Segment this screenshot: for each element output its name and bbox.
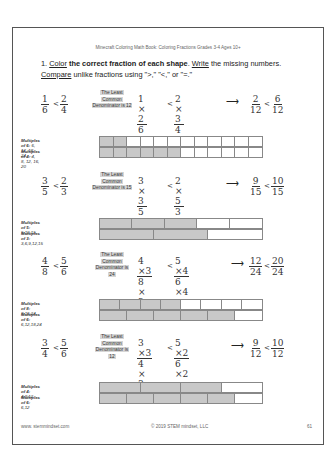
bar-cell[interactable]	[114, 148, 128, 157]
bar-cell[interactable]	[100, 311, 127, 320]
bar-cell[interactable]	[181, 383, 222, 392]
bar-cell[interactable]	[208, 148, 222, 157]
multiples-label: Multiples of 4: 4, 8, 12, 16, 20	[21, 149, 40, 169]
bar-cell[interactable]	[235, 394, 262, 403]
fraction-b-denominator: 3	[60, 187, 68, 197]
lcd-line: Denominator is 15	[90, 185, 134, 192]
lcd-line: 12	[90, 354, 134, 361]
fraction-bar[interactable]	[99, 136, 263, 147]
bar-cell[interactable]	[141, 300, 161, 309]
fraction-a-numerator: 1	[41, 94, 49, 105]
bar-cell[interactable]	[195, 148, 209, 157]
bar-cell[interactable]	[208, 394, 235, 403]
bar-cell[interactable]	[168, 148, 182, 157]
lcd-label: The LeastCommonDenominator is 12	[90, 90, 134, 110]
arrow-icon: ⟶	[231, 258, 244, 268]
bar-cell[interactable]	[161, 300, 181, 309]
fraction-b: 24	[60, 94, 68, 115]
bar-cell[interactable]	[127, 394, 154, 403]
bar-cell[interactable]	[235, 148, 249, 157]
bar-cell[interactable]	[141, 137, 155, 146]
result-fraction-a-denominator: 24	[249, 267, 262, 277]
bar-cell[interactable]	[100, 148, 114, 157]
bar-cell[interactable]	[181, 300, 201, 309]
bar-cell[interactable]	[141, 383, 182, 392]
fraction-bar[interactable]	[99, 218, 263, 229]
bar-cell[interactable]	[100, 383, 141, 392]
bar-cell[interactable]	[235, 311, 262, 320]
bar-cell[interactable]	[100, 219, 132, 228]
multiples-title: Multiples of 8:	[21, 301, 40, 311]
expanded-fraction-b-numerator: 2 × 5	[174, 176, 184, 207]
bar-cell[interactable]	[100, 394, 127, 403]
fraction-bar[interactable]	[99, 147, 263, 158]
bar-cell[interactable]	[154, 311, 181, 320]
result-fraction-a-numerator: 9	[252, 338, 260, 349]
bar-cell[interactable]	[100, 230, 154, 239]
result-fraction-b: 612	[271, 94, 284, 115]
lcd-text: 24	[108, 272, 115, 277]
bar-cell[interactable]	[127, 311, 154, 320]
bar-cell[interactable]	[235, 137, 249, 146]
bar-cell[interactable]	[242, 300, 262, 309]
result-fraction-b: 1015	[271, 176, 284, 197]
expanded-fraction-b-numerator: 5 ×2	[174, 338, 189, 359]
bar-cell[interactable]	[165, 219, 197, 228]
bar-cell[interactable]	[127, 137, 141, 146]
comparison-sign: <	[167, 262, 173, 270]
bar-cell[interactable]	[222, 383, 263, 392]
bar-cell[interactable]	[127, 148, 141, 157]
fraction-a-numerator: 3	[41, 176, 49, 187]
bar-cell[interactable]	[114, 137, 128, 146]
bar-cell[interactable]	[100, 300, 120, 309]
bar-cell[interactable]	[208, 311, 235, 320]
result-fraction-a: 212	[249, 94, 262, 115]
bar-cell[interactable]	[154, 394, 181, 403]
bar-cell[interactable]	[222, 137, 236, 146]
lcd-text: The Least	[100, 90, 123, 95]
expanded-fraction-a-numerator: 1 × 2	[137, 94, 147, 125]
bar-cell[interactable]	[222, 300, 242, 309]
fraction-bar[interactable]	[99, 299, 263, 310]
fraction-bar[interactable]	[99, 393, 263, 404]
bar-cell[interactable]	[201, 300, 221, 309]
comparison-sign: <	[53, 262, 59, 270]
fraction-bar[interactable]	[99, 229, 263, 240]
bar-cell[interactable]	[197, 219, 229, 228]
bar-cell[interactable]	[195, 137, 209, 146]
bar-cell[interactable]	[181, 394, 208, 403]
bar-cell[interactable]	[154, 148, 168, 157]
bar-cell[interactable]	[208, 230, 262, 239]
bar-cell[interactable]	[181, 148, 195, 157]
bar-cell[interactable]	[230, 219, 262, 228]
bar-cell[interactable]	[181, 137, 195, 146]
bar-cell[interactable]	[249, 148, 263, 157]
comparison-sign: <	[53, 100, 59, 108]
bar-cell[interactable]	[154, 230, 208, 239]
bar-cell[interactable]	[249, 137, 263, 146]
instruction-compare: Compare	[41, 70, 71, 79]
instruction-number: 1.	[41, 59, 47, 68]
bar-cell[interactable]	[181, 311, 208, 320]
lcd-line: Common	[90, 179, 134, 186]
fraction-bar[interactable]	[99, 382, 263, 393]
multiples-title: Multiples of 4:	[21, 149, 40, 159]
bar-cell[interactable]	[120, 300, 140, 309]
lcd-line: Denominator is 12	[90, 103, 134, 110]
fraction-bar[interactable]	[99, 310, 263, 321]
bar-cell[interactable]	[168, 137, 182, 146]
fraction-b-numerator: 2	[60, 94, 68, 105]
bar-cell[interactable]	[208, 137, 222, 146]
bar-cell[interactable]	[154, 137, 168, 146]
fraction-b-denominator: 6	[60, 267, 68, 277]
bar-cell[interactable]	[100, 137, 114, 146]
result-fraction-b-denominator: 12	[271, 349, 284, 359]
lcd-text: Common	[101, 179, 122, 184]
lcd-text: Common	[101, 259, 122, 264]
bar-cell[interactable]	[141, 148, 155, 157]
bar-cell[interactable]	[222, 148, 236, 157]
bar-cell[interactable]	[132, 219, 164, 228]
multiples-title: Multiples of 6:	[21, 312, 40, 322]
lcd-line: 24	[90, 272, 134, 279]
result-fraction-b-numerator: 10	[271, 176, 284, 187]
